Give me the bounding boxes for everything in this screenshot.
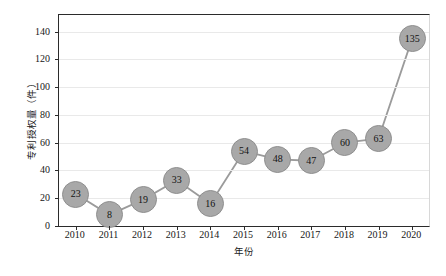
- x-axis-title: 年份: [58, 244, 430, 258]
- y-tick-label: 0: [45, 220, 50, 231]
- x-tick-label-2010: 2010: [65, 229, 85, 240]
- x-tick-label-2013: 2013: [166, 229, 186, 240]
- y-axis-tick-labels: 020406080100120140: [0, 0, 54, 276]
- data-point-2017: 47: [298, 147, 325, 174]
- data-point-2010: 23: [62, 181, 89, 208]
- y-tick-label: 60: [40, 136, 50, 147]
- gridline: [59, 59, 429, 60]
- y-tick-mark: [55, 87, 59, 88]
- data-point-2019: 63: [365, 125, 392, 152]
- y-tick-label: 100: [35, 81, 50, 92]
- y-tick-mark: [55, 143, 59, 144]
- x-tick-label-2015: 2015: [233, 229, 253, 240]
- x-tick-label-2018: 2018: [334, 229, 354, 240]
- gridline: [59, 115, 429, 116]
- x-tick-label-2020: 2020: [401, 229, 421, 240]
- gridline: [59, 87, 429, 88]
- y-tick-mark: [55, 32, 59, 33]
- data-point-2013: 33: [163, 167, 190, 194]
- y-tick-mark: [55, 226, 59, 227]
- gridline: [59, 198, 429, 199]
- series-line: [59, 15, 429, 226]
- y-tick-label: 140: [35, 25, 50, 36]
- data-point-2020: 135: [399, 25, 426, 52]
- x-tick-label-2012: 2012: [132, 229, 152, 240]
- gridline: [59, 32, 429, 33]
- data-point-2016: 48: [264, 146, 291, 173]
- y-tick-label: 120: [35, 53, 50, 64]
- plot-area: 2381933165448476063135: [58, 14, 430, 227]
- y-tick-label: 20: [40, 192, 50, 203]
- x-tick-label-2011: 2011: [99, 229, 119, 240]
- gridline: [59, 170, 429, 171]
- y-tick-label: 80: [40, 108, 50, 119]
- y-tick-mark: [55, 198, 59, 199]
- x-tick-label-2017: 2017: [300, 229, 320, 240]
- data-point-2015: 54: [231, 138, 258, 165]
- y-tick-mark: [55, 59, 59, 60]
- chart-figure: 专利授权量（件） 020406080100120140 238193316544…: [0, 0, 446, 276]
- x-tick-label-2019: 2019: [368, 229, 388, 240]
- y-tick-mark: [55, 115, 59, 116]
- y-tick-mark: [55, 170, 59, 171]
- x-axis-tick-labels: 2010201120122013201420152016201720182019…: [58, 229, 430, 245]
- x-tick-label-2016: 2016: [267, 229, 287, 240]
- x-tick-label-2014: 2014: [199, 229, 219, 240]
- y-tick-label: 40: [40, 164, 50, 175]
- data-point-2014: 16: [197, 190, 224, 217]
- data-point-2012: 19: [130, 186, 157, 213]
